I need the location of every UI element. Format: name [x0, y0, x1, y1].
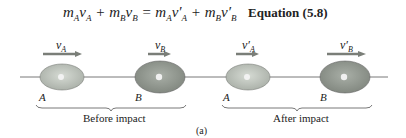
- ball-label-b-before: B: [135, 91, 142, 103]
- velocity-label-b-after: v′B: [340, 38, 353, 54]
- before-brace: [36, 105, 186, 111]
- ball-a-before: [40, 64, 84, 90]
- velocity-label-a-after: v′A: [242, 38, 255, 54]
- ball-label-b-after: B: [320, 91, 327, 103]
- collision-diagram: [0, 0, 406, 138]
- velocity-label-b-before: vB: [155, 38, 165, 54]
- after-impact-caption: After impact: [273, 112, 329, 124]
- velocity-label-a-before: vA: [56, 38, 66, 54]
- ball-a-after: [226, 64, 270, 90]
- ball-label-a-after: A: [223, 91, 230, 103]
- ball-b-after: [320, 61, 370, 93]
- before-impact-caption: Before impact: [83, 112, 146, 124]
- after-brace: [222, 105, 372, 111]
- figure-label: (a): [196, 125, 207, 136]
- ball-label-a-before: A: [39, 91, 46, 103]
- ball-b-before: [135, 61, 185, 93]
